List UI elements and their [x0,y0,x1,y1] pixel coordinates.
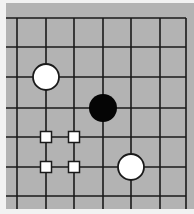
square-marker-icon [69,132,80,143]
square-marker-icon [41,132,52,143]
white-stone [33,64,59,90]
go-board [0,0,194,214]
square-marker-icon [41,162,52,173]
black-stone [89,94,117,122]
white-stone [118,154,144,180]
square-marker-icon [69,162,80,173]
